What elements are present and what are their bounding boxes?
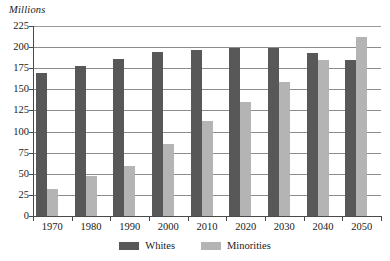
x-axis-tick-mark: [72, 216, 73, 221]
legend-label-minorities: Minorities: [227, 241, 271, 252]
y-axis-tick-label: 150: [13, 84, 29, 95]
bar-minorities-2010: [202, 121, 213, 216]
bar-whites-2020: [229, 48, 240, 216]
bar-group-2020: [226, 26, 265, 216]
bar-whites-2010: [191, 50, 202, 216]
x-axis-tick-label-2010: 2010: [187, 222, 227, 233]
x-axis-tick-mark: [226, 216, 227, 221]
y-axis-tick-label: 225: [13, 21, 29, 32]
x-axis-tick-mark: [188, 216, 189, 221]
x-axis-tick-label-2050: 2050: [342, 222, 382, 233]
bar-whites-1970: [36, 73, 47, 216]
y-axis-tick-label: 200: [13, 42, 29, 53]
legend-label-whites: Whites: [145, 241, 175, 252]
y-axis-tick-label: 125: [13, 105, 29, 116]
y-axis-tick-label: 100: [13, 127, 29, 138]
bar-whites-1980: [75, 66, 86, 216]
legend-swatch-whites: [119, 242, 139, 250]
bar-group-2030: [265, 26, 304, 216]
bar-group-2050: [342, 26, 381, 216]
y-axis-tick-label: 175: [13, 63, 29, 74]
bar-whites-2030: [268, 48, 279, 216]
x-axis-tick-label-1990: 1990: [110, 222, 150, 233]
bar-minorities-2040: [318, 60, 329, 216]
y-axis-tick-labels: 2252001751501251007550250: [0, 26, 29, 216]
legend-item-whites[interactable]: Whites: [119, 241, 175, 252]
bar-group-2010: [188, 26, 227, 216]
bar-group-1980: [72, 26, 111, 216]
x-axis-tick-mark: [342, 216, 343, 221]
chart-legend: WhitesMinorities: [0, 241, 390, 252]
legend-swatch-minorities: [201, 242, 221, 250]
x-axis-tick-mark: [304, 216, 305, 221]
y-axis-tick-label: 50: [19, 169, 30, 180]
x-axis-tick-label-1980: 1980: [71, 222, 111, 233]
bar-minorities-2000: [163, 144, 174, 216]
bar-whites-1990: [113, 59, 124, 216]
bar-minorities-1980: [86, 176, 97, 216]
bar-minorities-1990: [124, 166, 135, 216]
x-axis-tick-label-2030: 2030: [264, 222, 304, 233]
population-projection-bar-chart: Millions 2252001751501251007550250 19701…: [0, 0, 390, 261]
legend-item-minorities[interactable]: Minorities: [201, 241, 271, 252]
bar-group-2040: [304, 26, 343, 216]
bar-minorities-1970: [47, 189, 58, 216]
x-axis-tick-mark: [149, 216, 150, 221]
bar-group-2000: [149, 26, 188, 216]
x-axis-tick-label-2020: 2020: [226, 222, 266, 233]
x-axis-tick-label-2000: 2000: [148, 222, 188, 233]
x-axis-tick-label-2040: 2040: [303, 222, 343, 233]
bar-minorities-2020: [240, 102, 251, 216]
y-axis-tick-label: 75: [19, 148, 30, 159]
bar-group-1990: [110, 26, 149, 216]
x-axis-tick-mark: [33, 216, 34, 221]
bar-whites-2050: [345, 60, 356, 216]
x-axis-tick-mark: [265, 216, 266, 221]
x-axis-tick-mark: [381, 216, 382, 221]
plot-area: [33, 26, 381, 216]
x-axis-tick-labels: 197019801990200020102020203020402050: [33, 222, 381, 236]
bar-whites-2040: [307, 53, 318, 216]
bar-whites-2000: [152, 52, 163, 216]
x-axis-tick-label-1970: 1970: [32, 222, 72, 233]
y-axis-title: Millions: [9, 4, 46, 15]
bar-group-1970: [33, 26, 72, 216]
y-axis-tick-label: 25: [19, 190, 30, 201]
x-axis-tick-mark: [110, 216, 111, 221]
bars-layer: [33, 26, 381, 216]
bar-minorities-2030: [279, 82, 290, 216]
bar-minorities-2050: [356, 37, 367, 216]
